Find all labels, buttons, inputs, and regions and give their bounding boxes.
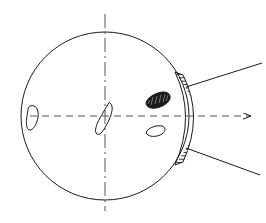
figure-container <box>0 0 266 223</box>
figure-background <box>0 0 266 223</box>
eye-diagram-svg <box>0 0 266 223</box>
